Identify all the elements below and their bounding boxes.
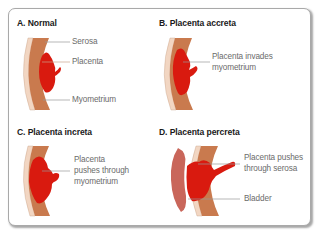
label-placenta-c: Placenta: [74, 154, 105, 165]
panel-c-illustration: [23, 146, 70, 216]
panel-c-title: C. Placenta increta: [17, 127, 92, 137]
label-through-serosa: through serosa: [244, 163, 297, 174]
panel-a-title: A. Normal: [17, 18, 57, 28]
label-placenta-invades: Placenta invades: [212, 51, 273, 62]
label-serosa: Serosa: [72, 36, 97, 47]
label-pushes-through: pushes through: [74, 165, 129, 176]
label-bladder: Bladder: [244, 193, 272, 204]
label-myometrium-c: myometrium: [74, 176, 118, 187]
label-placenta-pushes: Placenta pushes: [244, 152, 303, 163]
label-myometrium: Myometrium: [72, 94, 116, 105]
label-myometrium-b: myometrium: [212, 62, 256, 73]
label-placenta: Placenta: [72, 56, 103, 67]
panel-a-illustration: [23, 38, 70, 110]
panel-b-title: B. Placenta accreta: [159, 18, 236, 28]
panel-b-illustration: [164, 38, 210, 110]
panel-d-title: D. Placenta percreta: [159, 127, 240, 137]
panel-d-illustration: [171, 146, 240, 216]
